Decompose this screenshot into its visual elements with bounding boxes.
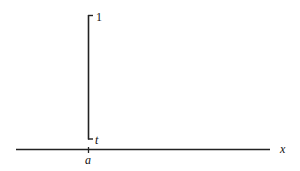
interval-bottom-label: t	[95, 133, 99, 147]
tick-a-label: a	[85, 153, 91, 167]
x-axis-label: x	[279, 142, 286, 156]
interval-top-label: 1	[96, 10, 102, 24]
diagram-canvas: 1 t a x	[0, 0, 300, 171]
